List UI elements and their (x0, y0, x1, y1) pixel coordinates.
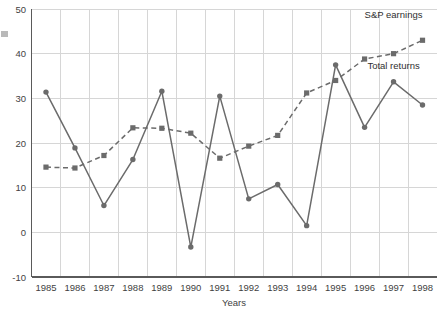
x-tick-label: 1989 (151, 282, 172, 293)
data-point-marker (304, 223, 309, 228)
data-point-marker (333, 62, 338, 67)
data-point-marker (275, 133, 280, 138)
y-tick-label: 20 (15, 138, 26, 149)
data-point-marker (72, 145, 77, 150)
line-chart: 50403020100-10 1985198619871988198919901… (0, 0, 446, 318)
stray-mark (1, 31, 8, 37)
y-tick-label: 40 (15, 48, 26, 59)
y-tick-label: -10 (12, 272, 26, 283)
series-annotations: S&P earningsTotal returns (365, 9, 423, 71)
chart-canvas: 50403020100-10 1985198619871988198919901… (0, 0, 446, 318)
data-point-marker (130, 125, 135, 130)
data-point-marker (246, 144, 251, 149)
y-tick-label: 30 (15, 93, 26, 104)
data-point-marker (391, 79, 396, 84)
x-axis-title: Years (222, 297, 246, 308)
x-tick-label: 1998 (412, 282, 433, 293)
data-point-marker (101, 153, 106, 158)
x-tick-label: 1992 (238, 282, 259, 293)
data-point-marker (275, 182, 280, 187)
data-point-marker (72, 165, 77, 170)
series-label: S&P earnings (365, 9, 423, 20)
y-axis-tick-labels: 50403020100-10 (12, 4, 26, 283)
x-tick-label: 1985 (35, 282, 56, 293)
y-tick-label: 10 (15, 182, 26, 193)
x-tick-label: 1997 (383, 282, 404, 293)
data-point-marker (217, 156, 222, 161)
x-tick-label: 1988 (122, 282, 143, 293)
x-tick-label: 1995 (325, 282, 346, 293)
data-point-marker (304, 90, 309, 95)
x-tick-label: 1987 (93, 282, 114, 293)
data-point-marker (43, 165, 48, 170)
data-point-marker (188, 244, 193, 249)
x-tick-label: 1986 (64, 282, 85, 293)
data-point-marker (159, 126, 164, 131)
y-tick-label: 50 (15, 4, 26, 15)
x-tick-label: 1990 (180, 282, 201, 293)
data-point-marker (362, 56, 367, 61)
x-tick-label: 1993 (267, 282, 288, 293)
x-tick-label: 1994 (296, 282, 317, 293)
x-axis-tick-labels: 1985198619871988198919901991199219931994… (35, 282, 433, 293)
data-point-marker (188, 131, 193, 136)
data-point-marker (130, 157, 135, 162)
data-point-marker (101, 203, 106, 208)
x-tick-label: 1996 (354, 282, 375, 293)
data-point-marker (391, 51, 396, 56)
data-point-marker (246, 196, 251, 201)
data-point-marker (159, 88, 164, 93)
data-point-marker (333, 78, 338, 83)
data-point-marker (362, 125, 367, 130)
x-tick-label: 1991 (209, 282, 230, 293)
series-label: Total returns (367, 60, 420, 71)
data-point-marker (420, 38, 425, 43)
data-point-marker (217, 93, 222, 98)
y-tick-label: 0 (21, 227, 26, 238)
data-point-marker (420, 102, 425, 107)
data-point-marker (43, 89, 48, 94)
